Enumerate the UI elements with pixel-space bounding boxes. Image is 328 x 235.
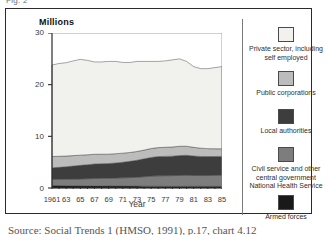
y-tick-label: 10 bbox=[26, 132, 44, 141]
legend-swatch-armed-forces bbox=[278, 195, 294, 210]
y-tick-label: 30 bbox=[26, 28, 44, 37]
y-tick-label: 0 bbox=[26, 184, 44, 193]
legend-item[interactable]: Local authorities bbox=[244, 109, 328, 136]
legend-swatch-local-authorities bbox=[278, 109, 294, 124]
plot-area: Millions 0102030 19616365676971737577798… bbox=[6, 9, 244, 212]
legend-item[interactable]: Civil service and other central governme… bbox=[244, 147, 328, 191]
legend-label: Local authorities bbox=[244, 127, 328, 136]
legend-label: Private sector, including self employed bbox=[244, 45, 328, 62]
figure-frame: Millions 0102030 19616365676971737577798… bbox=[5, 8, 312, 214]
figure-number: Fig. 2 bbox=[6, 0, 28, 6]
area-band bbox=[52, 59, 222, 157]
figure-caption: Source: Social Trends 1 (HMSO, 1991), p.… bbox=[8, 224, 320, 235]
legend-item[interactable]: Private sector, including self employed bbox=[244, 27, 328, 62]
x-axis-label: Year bbox=[52, 199, 222, 209]
legend-item[interactable]: Public corporations bbox=[244, 71, 328, 98]
legend-label: Armed forces bbox=[244, 213, 328, 222]
legend-label: Civil service and other central governme… bbox=[244, 165, 328, 191]
chart-legend: Private sector, including self employedP… bbox=[244, 19, 328, 219]
legend-label: Public corporations bbox=[244, 89, 328, 98]
legend-item[interactable]: Armed forces bbox=[244, 195, 328, 222]
y-axis-label: Millions bbox=[39, 17, 74, 27]
legend-swatch-civil-service bbox=[278, 147, 294, 162]
legend-swatch-public-corporations bbox=[278, 71, 294, 86]
stacked-area-chart bbox=[52, 33, 222, 189]
y-tick-label: 20 bbox=[26, 80, 44, 89]
legend-divider bbox=[242, 19, 243, 215]
chart-svg bbox=[46, 33, 222, 189]
legend-swatch-private-sector bbox=[278, 27, 294, 42]
